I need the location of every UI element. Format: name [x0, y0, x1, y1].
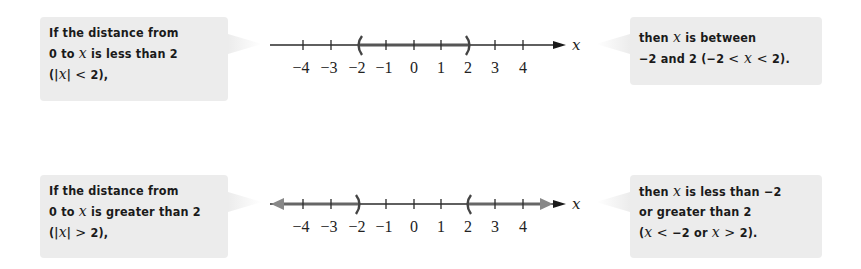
shade-arrow-right-icon — [540, 198, 553, 210]
connector-pointers — [228, 34, 630, 212]
number-line-between: x −4 −3 −2 −1 0 1 2 3 4 — [270, 36, 581, 76]
svg-text:1: 1 — [437, 218, 445, 235]
svg-text:0: 0 — [410, 59, 418, 76]
svg-text:4: 4 — [519, 59, 527, 76]
arrow-head-icon — [553, 200, 566, 208]
svg-text:3: 3 — [491, 218, 499, 235]
svg-text:2: 2 — [464, 59, 472, 76]
tick-labels: −4 −3 −2 −1 0 1 2 3 4 — [292, 218, 527, 235]
svg-text:0: 0 — [410, 218, 418, 235]
svg-text:−3: −3 — [320, 59, 337, 76]
svg-text:−1: −1 — [375, 218, 392, 235]
arrow-head-icon — [553, 41, 566, 49]
svg-text:−3: −3 — [320, 218, 337, 235]
svg-text:−4: −4 — [292, 218, 309, 235]
number-line-diagrams: x −4 −3 −2 −1 0 1 2 3 4 x −4 — [0, 0, 861, 269]
tick-labels: −4 −3 −2 −1 0 1 2 3 4 — [292, 59, 527, 76]
svg-text:4: 4 — [519, 218, 527, 235]
svg-text:−4: −4 — [292, 59, 309, 76]
number-line-outside: x −4 −3 −2 −1 0 1 2 3 4 — [270, 195, 581, 235]
axis-label: x — [572, 36, 581, 54]
svg-text:−2: −2 — [348, 218, 365, 235]
svg-text:−2: −2 — [348, 59, 365, 76]
svg-text:1: 1 — [437, 59, 445, 76]
axis-label: x — [572, 195, 581, 213]
shade-arrow-left-icon — [271, 198, 284, 210]
svg-text:2: 2 — [464, 218, 472, 235]
svg-text:3: 3 — [491, 59, 499, 76]
svg-text:−1: −1 — [375, 59, 392, 76]
